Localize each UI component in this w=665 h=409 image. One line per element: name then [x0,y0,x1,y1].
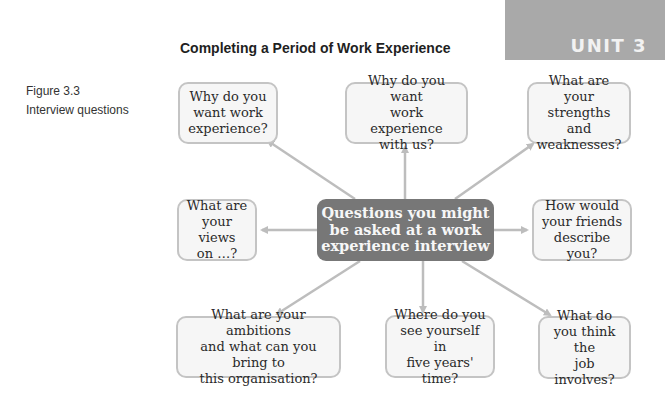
node-why-with-us: Why do you want work experience with us? [345,82,468,144]
node-friends-describe: How would your friends describe you? [532,199,632,261]
node-views-on: What are your views on …? [177,199,257,261]
central-topic: Questions you might be asked at a work e… [317,199,494,261]
arrow-strengths [455,144,533,199]
arrow-why-work-experience [268,141,355,199]
node-strengths-weaknesses: What are your strengths and weaknesses? [527,82,631,144]
node-job-involves: What do you think the job involves? [538,316,631,379]
node-why-work-experience: Why do you want work experience? [178,82,278,144]
node-ambitions: What are your ambitions and what can you… [176,316,341,378]
node-five-years: Where do you see yourself in five years'… [385,315,495,378]
